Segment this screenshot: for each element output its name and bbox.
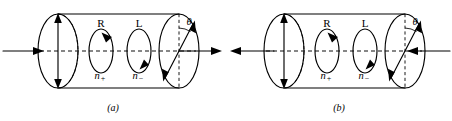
angle-arc-b (405, 28, 417, 32)
figure-container: R n + L n − θ (a) (0, 0, 452, 121)
label-n-minus-subscript-b: − (365, 74, 370, 83)
panel-caption-a: (a) (107, 102, 119, 114)
label-n-plus-a: n (94, 70, 99, 81)
circular-polarization-arrowhead-L-a (140, 60, 150, 70)
outgoing-beam-arrowhead-b (230, 47, 241, 55)
label-n-plus-subscript-a: + (101, 74, 106, 83)
label-L-a: L (136, 17, 143, 29)
incoming-beam-arrowhead-b (407, 47, 418, 55)
panel-caption-b: (b) (333, 102, 345, 114)
label-theta-b: θ (412, 16, 417, 27)
output-polarization-arrowhead-lower-a (162, 69, 169, 82)
label-n-minus-b: n (358, 70, 363, 81)
label-n-plus-b: n (320, 70, 325, 81)
label-theta-a: θ (186, 16, 191, 27)
label-R-a: R (97, 17, 105, 29)
circular-polarization-arrowhead-R-b (328, 33, 339, 43)
panel-a-diagram: R n + L n − θ (a) (0, 0, 226, 121)
label-n-minus-subscript-a: − (139, 74, 144, 83)
label-R-b: R (323, 17, 331, 29)
label-n-minus-a: n (132, 70, 137, 81)
outgoing-beam-arrowhead-a (211, 47, 222, 55)
input-polarization-arrowhead-lower-b (388, 69, 395, 82)
label-L-b: L (362, 17, 369, 29)
circular-polarization-arrowhead-R-a (102, 33, 113, 43)
circular-polarization-arrowhead-L-b (366, 60, 376, 70)
label-n-plus-subscript-b: + (327, 74, 332, 83)
angle-arc-a (179, 28, 191, 32)
panel-b-diagram: R n + L n − θ (b) (226, 0, 452, 121)
